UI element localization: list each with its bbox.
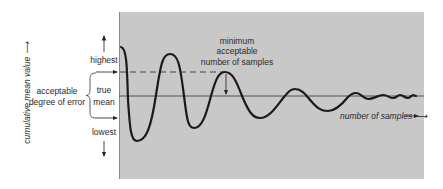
annotation-line3: number of samples [201,57,273,67]
true-label: true [97,85,112,95]
annotation-line1: minimum [220,36,254,46]
x-axis-label: number of samples ⟶ [340,111,427,121]
mean-label: mean [93,97,114,107]
acceptable-label: acceptable [36,86,77,96]
y-axis-label: cumulative mean value ⟶ [22,42,32,143]
diagram: cumulative mean value ⟶ acceptable degre… [0,0,443,189]
degree-of-error-label: degree of error [29,97,85,107]
annotation-line2: acceptable [216,46,257,56]
error-brace [86,73,96,118]
highest-label: highest [90,55,117,65]
lowest-label: lowest [92,127,116,137]
